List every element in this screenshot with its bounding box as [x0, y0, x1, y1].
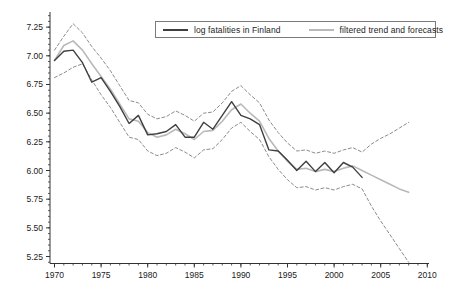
x-tick-label: 1990 — [231, 270, 250, 280]
x-tick-label: 2000 — [325, 270, 344, 280]
legend-label-observed: log fatalities in Finland — [194, 25, 281, 35]
y-tick-label: 7.25 — [26, 22, 43, 32]
series-log-fatalities-in-finland — [55, 50, 363, 177]
y-tick-label: 7.00 — [26, 51, 43, 61]
y-tick-label: 6.50 — [26, 108, 43, 118]
legend-line-sample-observed-icon — [163, 29, 188, 31]
legend-line-sample-trend-icon — [309, 29, 334, 31]
y-tick-label: 5.75 — [26, 194, 43, 204]
series-lower-90-confidence-band — [55, 64, 409, 262]
legend-item-trend: filtered trend and forecasts — [309, 25, 443, 35]
chart-figure: 5.255.505.756.006.256.506.757.007.251970… — [0, 0, 455, 295]
y-tick-label: 5.50 — [26, 223, 43, 233]
x-tick-label: 1995 — [278, 270, 297, 280]
legend-label-trend: filtered trend and forecasts — [340, 25, 443, 35]
x-tick-label: 1975 — [92, 270, 111, 280]
y-tick-label: 6.00 — [26, 166, 43, 176]
legend: log fatalities in Finland filtered trend… — [155, 21, 436, 38]
x-tick-label: 2010 — [418, 270, 437, 280]
legend-item-observed: log fatalities in Finland — [163, 25, 281, 35]
x-tick-label: 1985 — [185, 270, 204, 280]
y-tick-label: 5.25 — [26, 252, 43, 262]
y-tick-label: 6.25 — [26, 137, 43, 147]
x-tick-label: 1980 — [138, 270, 157, 280]
x-tick-label: 1970 — [45, 270, 64, 280]
y-tick-label: 6.75 — [26, 79, 43, 89]
line-chart-svg: 5.255.505.756.006.256.506.757.007.251970… — [0, 0, 455, 295]
x-tick-label: 2005 — [371, 270, 390, 280]
